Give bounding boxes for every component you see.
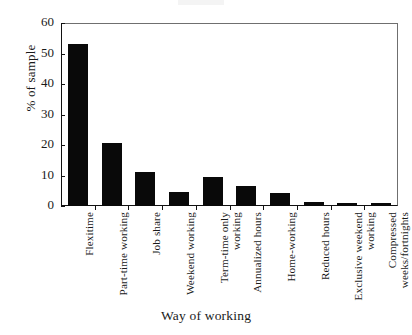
y-tick-mark <box>61 206 65 207</box>
x-tick-mark <box>297 206 298 210</box>
x-tick-mark <box>364 206 365 210</box>
bar-chart-figure: % of sample 0102030405060 FlexitimePart-… <box>0 0 412 335</box>
y-tick-mark <box>61 54 65 55</box>
bar <box>371 203 391 206</box>
x-axis-title: Way of working <box>0 308 412 324</box>
bar <box>236 186 256 206</box>
x-tick-mark <box>162 206 163 210</box>
y-tick-mark <box>61 176 65 177</box>
y-tick-label: 50 <box>26 45 54 61</box>
y-tick-label: 60 <box>26 14 54 30</box>
x-tick-mark <box>196 206 197 210</box>
y-tick-label: 40 <box>26 75 54 91</box>
y-tick-label: 10 <box>26 167 54 183</box>
x-tick-mark <box>331 206 332 210</box>
bar <box>135 172 155 206</box>
x-tick-mark <box>95 206 96 210</box>
page-artifact <box>178 0 224 5</box>
bar <box>203 177 223 206</box>
bar <box>68 44 88 206</box>
bar <box>304 202 324 206</box>
y-tick-mark <box>61 23 65 24</box>
y-tick-mark <box>61 84 65 85</box>
y-tick-label: 0 <box>26 197 54 213</box>
y-tick-label: 20 <box>26 136 54 152</box>
bar <box>270 193 290 206</box>
y-tick-label: 30 <box>26 106 54 122</box>
bar <box>337 203 357 206</box>
y-tick-mark <box>61 145 65 146</box>
x-tick-mark <box>128 206 129 210</box>
x-tick-mark <box>263 206 264 210</box>
bar <box>102 143 122 206</box>
bar <box>169 192 189 206</box>
y-tick-mark <box>61 115 65 116</box>
x-tick-mark <box>230 206 231 210</box>
